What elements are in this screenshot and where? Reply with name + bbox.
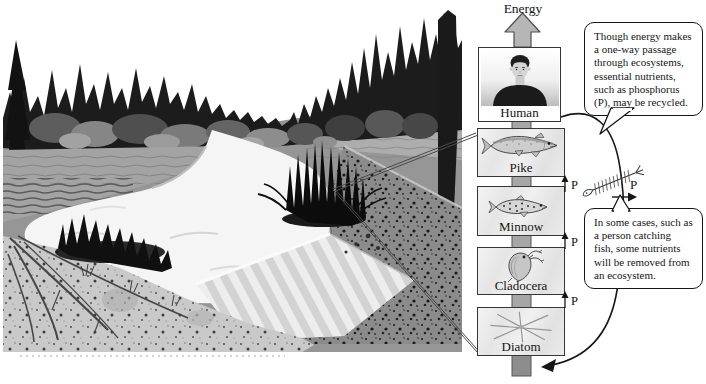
phosphorus-removed-label: P xyxy=(630,177,637,193)
up-arrow-icon xyxy=(561,232,569,249)
chain-label-human: Human xyxy=(479,106,560,120)
p-removal-arrow xyxy=(612,193,637,202)
human-portrait xyxy=(481,50,559,106)
phosphorus-symbol: P xyxy=(571,178,578,193)
chain-box-diatom: Diatom xyxy=(477,307,565,356)
energy-arrow xyxy=(505,13,540,47)
phosphorus-up-label-2: P xyxy=(561,232,578,250)
chain-box-minnow: Minnow xyxy=(477,186,565,236)
minnow-illustration xyxy=(486,193,556,221)
chain-box-cladocera: Cladocera xyxy=(477,247,565,295)
chain-label-pike: Pike xyxy=(478,161,564,175)
chain-box-pike: Pike xyxy=(477,128,565,177)
phosphorus-up-label-1: P xyxy=(561,175,578,193)
chain-label-cladocera: Cladocera xyxy=(478,279,564,293)
phosphorus-symbol: P xyxy=(571,235,578,250)
up-arrow-icon xyxy=(561,291,569,308)
chain-box-human: Human xyxy=(478,47,561,122)
energy-label: Energy xyxy=(494,1,552,17)
figure-canvas: Energy Human xyxy=(0,0,706,384)
stream-painting xyxy=(3,8,462,358)
chain-label-diatom: Diatom xyxy=(478,340,564,354)
phosphorus-up-label-3: P xyxy=(561,291,578,309)
pike-illustration xyxy=(479,131,563,161)
phosphorus-symbol: P xyxy=(571,294,578,309)
callout-removal-note: In some cases, such as a person catching… xyxy=(584,208,703,289)
callout-recycle-note: Though energy makes a one-way passage th… xyxy=(584,22,703,116)
up-arrow-icon xyxy=(561,175,569,192)
chain-label-minnow: Minnow xyxy=(478,220,564,234)
